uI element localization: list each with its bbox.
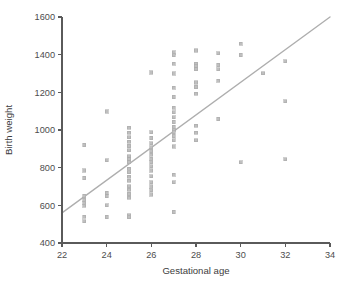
data-point <box>172 210 175 213</box>
data-point <box>150 185 153 188</box>
data-point <box>194 49 197 52</box>
data-point <box>284 100 287 103</box>
y-axis-ticks: 4006008001000120014001600 <box>35 12 62 248</box>
scatter-plot-figure: 4006008001000120014001600 22242628303234… <box>0 0 350 281</box>
data-point <box>150 71 153 74</box>
data-point <box>172 86 175 89</box>
x-tick-label: 24 <box>102 250 112 260</box>
data-point <box>150 175 153 178</box>
data-point <box>150 131 153 134</box>
x-tick-label: 26 <box>146 250 156 260</box>
data-point <box>172 111 175 114</box>
data-point <box>150 160 153 163</box>
data-point <box>127 179 130 182</box>
data-point <box>217 63 220 66</box>
y-tick-label: 1000 <box>35 125 55 135</box>
data-point <box>127 144 130 147</box>
data-point <box>194 92 197 95</box>
y-tick-label: 600 <box>40 201 55 211</box>
data-point <box>105 204 108 207</box>
data-point <box>217 52 220 55</box>
data-point <box>127 196 130 199</box>
data-point <box>194 85 197 88</box>
data-point <box>172 181 175 184</box>
data-point <box>127 185 130 188</box>
data-point <box>194 139 197 142</box>
data-point <box>105 159 108 162</box>
data-point <box>127 161 130 164</box>
y-tick-label: 1600 <box>35 12 55 22</box>
data-point <box>150 153 153 156</box>
data-point <box>172 120 175 123</box>
data-point <box>83 194 86 197</box>
regression-line <box>62 17 330 213</box>
x-axis-title: Gestational age <box>162 265 229 276</box>
x-tick-label: 28 <box>191 250 201 260</box>
data-point <box>194 81 197 84</box>
data-point <box>150 169 153 172</box>
data-point <box>172 134 175 137</box>
data-point <box>150 136 153 139</box>
data-point <box>217 117 220 120</box>
data-point <box>261 72 264 75</box>
data-point <box>194 124 197 127</box>
data-point <box>127 158 130 161</box>
data-point <box>172 131 175 134</box>
data-point <box>150 189 153 192</box>
data-point <box>172 53 175 56</box>
chart-canvas: 4006008001000120014001600 22242628303234… <box>0 0 350 281</box>
y-tick-label: 800 <box>40 163 55 173</box>
y-tick-label: 400 <box>40 238 55 248</box>
data-point <box>172 106 175 109</box>
data-point <box>284 158 287 161</box>
data-point <box>194 131 197 134</box>
data-point <box>83 220 86 223</box>
data-point <box>239 161 242 164</box>
data-point <box>172 62 175 65</box>
data-point <box>127 126 130 129</box>
data-point <box>127 188 130 191</box>
data-point <box>127 131 130 134</box>
data-point <box>127 167 130 170</box>
data-point <box>172 72 175 75</box>
data-point <box>83 198 86 201</box>
data-point <box>217 79 220 82</box>
data-point <box>239 42 242 45</box>
data-point <box>105 195 108 198</box>
data-point <box>172 125 175 128</box>
data-point <box>127 192 130 195</box>
data-point <box>127 175 130 178</box>
y-tick-label: 1400 <box>35 50 55 60</box>
data-point <box>127 171 130 174</box>
data-point <box>150 165 153 168</box>
data-point <box>172 145 175 148</box>
data-point <box>83 176 86 179</box>
x-axis-ticks: 22242628303234 <box>57 243 335 260</box>
data-point <box>105 215 108 218</box>
data-point <box>105 191 108 194</box>
x-tick-label: 22 <box>57 250 67 260</box>
data-point <box>150 149 153 152</box>
x-tick-label: 34 <box>325 250 335 260</box>
data-point <box>83 215 86 218</box>
data-point <box>83 204 86 207</box>
y-axis-title: Birth weight <box>3 105 14 155</box>
data-point <box>127 140 130 143</box>
data-point <box>127 215 130 218</box>
data-point <box>172 173 175 176</box>
data-point <box>150 193 153 196</box>
data-point <box>172 95 175 98</box>
data-point <box>83 143 86 146</box>
data-point <box>239 53 242 56</box>
data-point <box>194 65 197 68</box>
data-point <box>83 169 86 172</box>
data-point <box>105 110 108 113</box>
data-point <box>284 60 287 63</box>
data-point <box>127 149 130 152</box>
y-tick-label: 1200 <box>35 88 55 98</box>
data-point <box>150 157 153 160</box>
data-point <box>172 116 175 119</box>
data-point <box>217 68 220 71</box>
data-point <box>150 142 153 145</box>
data-point <box>172 139 175 142</box>
